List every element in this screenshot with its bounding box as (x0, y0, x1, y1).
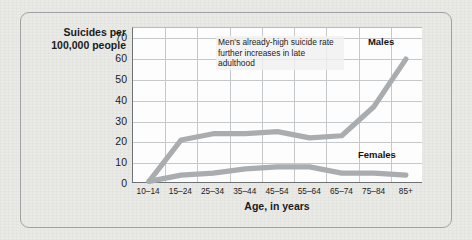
y-tick-label-50: 50 (115, 73, 127, 85)
annotation-males-late-adulthood: Men's already-high suicide rate further … (216, 36, 344, 70)
y-tick-label-0: 0 (121, 177, 127, 189)
x-tick-label-2: 25–34 (201, 186, 224, 196)
y-tick-label-60: 60 (115, 52, 127, 64)
y-tick-label-70: 70 (115, 31, 127, 43)
x-tick-label-3: 35–44 (233, 186, 256, 196)
x-tick-label-6: 65–74 (330, 186, 353, 196)
x-tick-label-5: 55–64 (298, 186, 321, 196)
series-line-males (149, 59, 406, 181)
y-tick-label-40: 40 (115, 94, 127, 106)
y-tick-label-10: 10 (115, 156, 127, 168)
x-tick-label-1: 15–24 (169, 186, 192, 196)
y-tick-label-30: 30 (115, 115, 127, 127)
y-tick-label-20: 20 (115, 135, 127, 147)
x-axis-title: Age, in years (132, 200, 422, 212)
series-label-females: Females (358, 149, 396, 160)
y-axis-title-line-2: 100,000 people (26, 39, 126, 52)
y-axis-title: Suicides per 100,000 people (26, 26, 126, 51)
x-tick-label-4: 45–54 (265, 186, 288, 196)
series-label-males: Males (368, 36, 394, 47)
x-tick-label-8: 85+ (399, 186, 413, 196)
y-axis-title-line-1: Suicides per (26, 26, 126, 39)
series-line-females (149, 167, 406, 182)
x-tick-label-7: 75–84 (362, 186, 385, 196)
annotation-line-1: Men's already-high suicide (218, 37, 317, 47)
x-tick-label-0: 10–14 (137, 186, 160, 196)
